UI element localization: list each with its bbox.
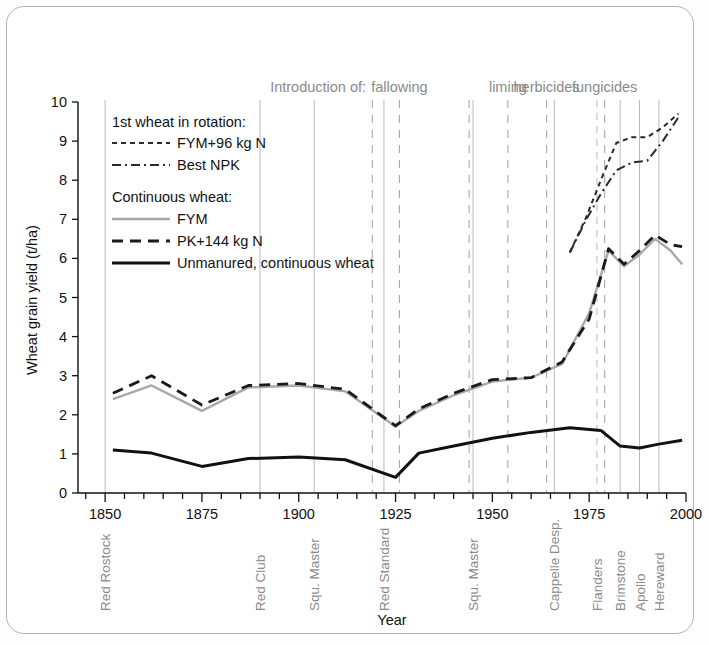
legend-label-6: Unmanured, continuous wheat [177, 255, 374, 271]
legend-label-2: Best NPK [177, 157, 240, 173]
variety-label-5: Cappelle Desp. [547, 519, 562, 611]
legend-group-title-0: 1st wheat in rotation: [112, 114, 246, 130]
y-tick-labels: 012345678910 [51, 94, 67, 501]
variety-label-8: Apollo [633, 573, 648, 611]
variety-label-4: Squ. Master [466, 538, 481, 611]
variety-label-3: Red Standard [377, 528, 392, 611]
y-tick-label-2: 2 [59, 407, 67, 423]
y-tick-label-0: 0 [59, 485, 67, 501]
legend: 1st wheat in rotation:FYM+96 kg NBest NP… [112, 114, 374, 271]
variety-label-1: Red Club [253, 555, 268, 611]
x-tick-label-1925: 1925 [379, 506, 411, 522]
y-tick-label-5: 5 [59, 290, 67, 306]
chart-canvas: 012345678910 185018751900192519501975200… [0, 0, 709, 645]
annotation-header: Introduction of: [270, 79, 366, 95]
x-tick-labels: 1850187519001925195019752000 [89, 506, 702, 522]
x-tick-label-1950: 1950 [476, 506, 508, 522]
legend-label-1: FYM+96 kg N [177, 135, 266, 151]
annotation-label-fungicides: fungicides [572, 79, 637, 95]
variety-label-2: Squ. Master [307, 538, 322, 611]
x-tick-label-1900: 1900 [283, 506, 315, 522]
variety-label-7: Brimstone [613, 550, 628, 611]
variety-label-0: Red Rostock [98, 533, 113, 611]
series-line-best-npk [570, 118, 678, 253]
y-tick-label-9: 9 [59, 133, 67, 149]
variety-labels: Red RostockRed ClubSqu. MasterRed Standa… [98, 519, 667, 611]
y-tick-label-4: 4 [59, 329, 67, 345]
legend-group-title-3: Continuous wheat: [112, 189, 232, 205]
annotation-label-fallowing: fallowing [371, 79, 427, 95]
y-tick-label-3: 3 [59, 368, 67, 384]
x-tick-label-1875: 1875 [186, 506, 218, 522]
x-tick-label-1975: 1975 [573, 506, 605, 522]
x-tick-label-1850: 1850 [89, 506, 121, 522]
annotation-label-herbicides: herbicides [514, 79, 580, 95]
variety-label-6: Flanders [590, 558, 605, 611]
y-tick-label-1: 1 [59, 446, 67, 462]
annotation-labels: Introduction of:fallowinglimingherbicide… [270, 79, 637, 95]
x-tick-label-2000: 2000 [670, 506, 702, 522]
variety-label-9: Hereward [652, 552, 667, 611]
legend-label-5: PK+144 kg N [177, 233, 263, 249]
wheat-yield-line-chart: 012345678910 185018751900192519501975200… [0, 0, 709, 645]
legend-label-4: FYM [177, 211, 208, 227]
y-tick-label-7: 7 [59, 211, 67, 227]
y-tick-label-6: 6 [59, 250, 67, 266]
series-line-fym-96-kg-n [570, 114, 678, 253]
y-axis-title: Wheat grain yield (t/ha) [24, 225, 40, 375]
y-tick-label-8: 8 [59, 172, 67, 188]
chart-page: 012345678910 185018751900192519501975200… [0, 0, 709, 645]
x-axis-title: Year [377, 612, 406, 628]
y-tick-label-10: 10 [51, 94, 67, 110]
